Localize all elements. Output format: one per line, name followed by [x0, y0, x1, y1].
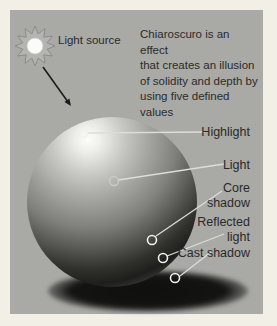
light-source-icon	[15, 26, 55, 66]
highlight-leader-line	[88, 132, 205, 133]
reflected-light-marker	[159, 254, 168, 263]
core-shadow-marker	[148, 236, 157, 245]
light-marker	[110, 177, 119, 186]
description-line-2: that creates an illusion	[140, 58, 260, 74]
label-cast-shadow: Cast shadow	[178, 246, 250, 261]
starburst-center	[27, 38, 43, 54]
light-source-label: Light source	[58, 33, 121, 47]
highlight-marker	[79, 129, 88, 138]
light-leader-line	[118, 164, 224, 180]
cast-shadow-marker	[171, 274, 180, 283]
description-line-4: using five defined values	[140, 89, 260, 120]
label-highlight: Highlight	[201, 125, 250, 140]
label-core-shadow: Core shadow	[200, 181, 250, 211]
light-direction-arrow	[43, 67, 71, 106]
description-line-3: of solidity and depth by	[140, 74, 260, 90]
description-line-1: Chiaroscuro is an effect	[140, 27, 260, 58]
label-light: Light	[223, 158, 250, 173]
chiaroscuro-diagram: Light source Chiaroscuro is an effect th…	[0, 0, 277, 326]
description-text: Chiaroscuro is an effect that creates an…	[140, 27, 260, 121]
label-reflected-light: Reflected light	[188, 215, 250, 245]
